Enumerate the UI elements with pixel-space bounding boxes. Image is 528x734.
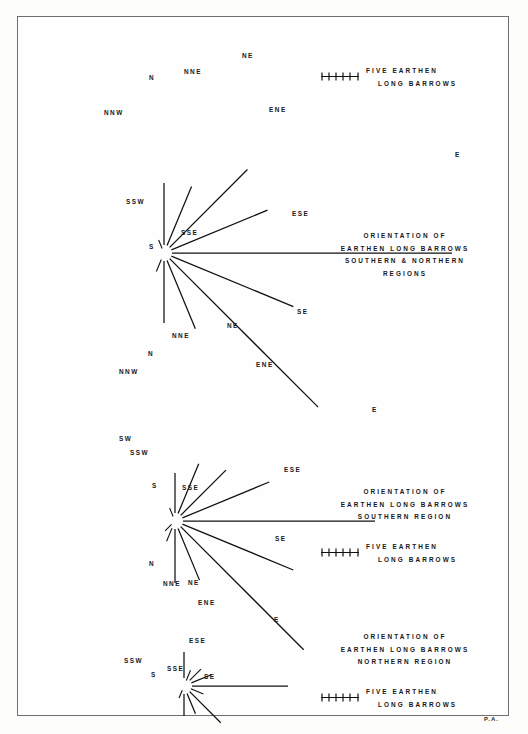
rose1-label-e: E xyxy=(455,152,461,158)
rose2-label-s: S xyxy=(152,483,158,489)
rose1-label-se: SE xyxy=(297,309,309,315)
ray-northern-nne xyxy=(186,670,190,680)
title-combined-line1: ORIENTATION OF xyxy=(305,230,505,243)
title-northern-line2: EARTHEN LONG BARROWS xyxy=(305,644,505,657)
title-block-combined: ORIENTATION OF EARTHEN LONG BARROWS SOUT… xyxy=(305,230,505,280)
ray-northern-se xyxy=(190,692,221,723)
legend-text-3: FIVE EARTHEN LONG BARROWS xyxy=(366,686,457,711)
ray-northern-ssw xyxy=(179,690,182,698)
title-combined-line4: REGIONS xyxy=(305,268,505,281)
rose2-label-ene: ENE xyxy=(256,362,274,368)
rose2-label-e: E xyxy=(372,407,378,413)
rose2-label-nnw: NNW xyxy=(119,369,139,375)
legend-line-3a: FIVE EARTHEN xyxy=(366,686,457,699)
title-southern-line3: SOUTHERN REGION xyxy=(305,511,505,524)
ray-combined-nne xyxy=(167,186,191,245)
rose2-label-sw: SW xyxy=(119,436,132,442)
ray-southern-nnw xyxy=(170,508,173,516)
scale-bar-icon-3 xyxy=(320,692,360,702)
rose1-label-ssw: SSW xyxy=(126,199,145,205)
legend-line-2b: LONG BARROWS xyxy=(366,554,457,567)
rose3-label-ssw: SSW xyxy=(124,658,143,664)
rose1-label-ne: NE xyxy=(242,53,254,59)
rose1-label-ese: ESE xyxy=(292,211,309,217)
rose3-label-sse: SSE xyxy=(167,666,184,672)
ray-southern-ese xyxy=(182,524,293,570)
scale-bar-icon-1 xyxy=(320,71,360,81)
rose1-label-ene: ENE xyxy=(269,107,287,113)
rose3-label-ne: NE xyxy=(188,580,200,586)
title-northern-line1: ORIENTATION OF xyxy=(305,631,505,644)
ray-northern-ne xyxy=(190,669,201,680)
rose1-label-nne: NNE xyxy=(184,69,202,75)
rose1-label-s: S xyxy=(149,244,155,250)
ray-combined-ese xyxy=(171,256,293,307)
legend-line-2a: FIVE EARTHEN xyxy=(366,541,457,554)
rose2-label-n: N xyxy=(148,351,154,357)
rose2-label-ese: ESE xyxy=(284,467,301,473)
author-signature: P.A. xyxy=(484,716,499,722)
title-block-northern: ORIENTATION OF EARTHEN LONG BARROWS NORT… xyxy=(305,631,505,669)
rose3-label-nne: NNE xyxy=(163,581,181,587)
ray-southern-ssw xyxy=(167,528,172,541)
title-southern-line2: EARTHEN LONG BARROWS xyxy=(305,499,505,512)
legend-text-1: FIVE EARTHEN LONG BARROWS xyxy=(366,65,457,90)
rose1-label-n: N xyxy=(149,75,155,81)
figure-border: NNW N NNE NE ENE E ESE SE SSE S SSW FIVE… xyxy=(17,16,509,716)
title-combined-line2: EARTHEN LONG BARROWS xyxy=(305,243,505,256)
title-block-southern: ORIENTATION OF EARTHEN LONG BARROWS SOUT… xyxy=(305,486,505,524)
title-northern-line3: NORTHERN REGION xyxy=(305,656,505,669)
legend-line-1a: FIVE EARTHEN xyxy=(366,65,457,78)
rose2-label-ne: NE xyxy=(227,323,239,329)
ray-combined-se xyxy=(170,259,318,407)
rose1-label-sse: SSE xyxy=(181,230,198,236)
title-combined-line3: SOUTHERN & NORTHERN xyxy=(305,255,505,268)
rose3-label-e: E xyxy=(274,617,280,623)
rose2-label-ssw: SSW xyxy=(130,450,149,456)
rose1-label-nnw: NNW xyxy=(104,110,124,116)
ray-southern-sw xyxy=(165,524,171,530)
title-southern-line1: ORIENTATION OF xyxy=(305,486,505,499)
rose2-label-sse: SSE xyxy=(182,485,199,491)
rose3-label-n: N xyxy=(149,561,155,567)
legend-line-3b: LONG BARROWS xyxy=(366,699,457,712)
ray-combined-nnw xyxy=(159,240,162,248)
ray-southern-ne xyxy=(181,470,226,515)
rose3-label-ene: ENE xyxy=(198,600,216,606)
ray-combined-ssw xyxy=(156,259,161,271)
figure-page: NNW N NNE NE ENE E ESE SE SSE S SSW FIVE… xyxy=(0,0,528,734)
legend-line-1b: LONG BARROWS xyxy=(366,78,457,91)
ray-northern-ese xyxy=(191,689,204,694)
rose2-label-nne: NNE xyxy=(172,333,190,339)
rose3-label-s: S xyxy=(151,672,157,678)
rose3-label-ese: ESE xyxy=(189,638,206,644)
rose3-label-se: SE xyxy=(204,674,216,680)
ray-southern-sse xyxy=(178,528,199,580)
legend-text-2: FIVE EARTHEN LONG BARROWS xyxy=(366,541,457,566)
rose2-label-se: SE xyxy=(275,536,287,542)
scale-bar-icon-2 xyxy=(320,547,360,557)
